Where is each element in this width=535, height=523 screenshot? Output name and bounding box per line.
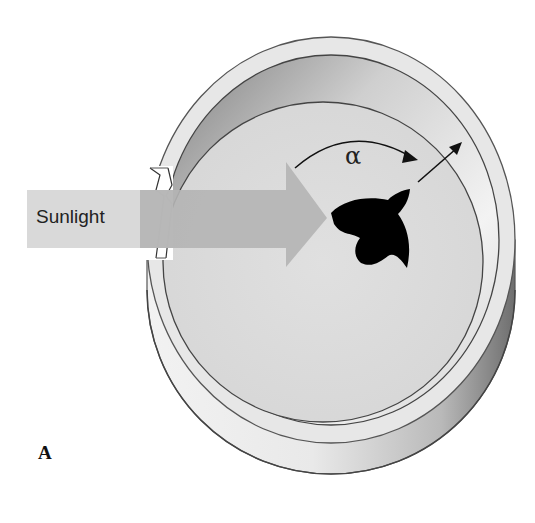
angle-alpha-label: α [345, 142, 361, 170]
panel-label: A [38, 442, 52, 464]
orientation-arena-diagram [0, 0, 535, 523]
sunlight-label: Sunlight [36, 206, 105, 228]
